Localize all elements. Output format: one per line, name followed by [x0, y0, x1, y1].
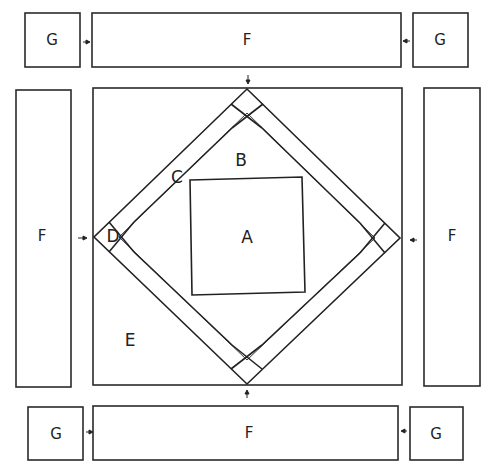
label-b: B: [235, 150, 247, 170]
arrow-down-icon: [246, 75, 250, 84]
label-g: G: [430, 425, 442, 443]
label-e: E: [125, 330, 136, 350]
quilt-diagram: G F G F A: [0, 0, 494, 467]
top-border-f: F: [92, 13, 401, 67]
label-g: G: [434, 31, 446, 49]
arrow-right-icon: [78, 236, 87, 240]
label-g: G: [46, 31, 58, 49]
arrow-right-icon: [86, 430, 93, 434]
label-d: D: [106, 226, 119, 246]
left-border-f: F: [16, 90, 71, 387]
label-f: F: [38, 227, 47, 245]
bottom-left-corner-g: G: [28, 407, 83, 460]
top-left-corner-g: G: [25, 13, 80, 67]
label-a: A: [241, 227, 253, 247]
right-border-f: F: [424, 88, 480, 386]
center-block: A B C D E: [93, 88, 402, 385]
label-f: F: [245, 424, 254, 442]
arrow-left-icon: [401, 429, 407, 433]
label-f: F: [448, 227, 457, 245]
label-g: G: [50, 425, 62, 443]
label-f: F: [243, 31, 252, 49]
top-right-corner-g: G: [413, 13, 468, 67]
arrow-left-icon: [410, 238, 417, 242]
arrow-right-icon: [83, 40, 90, 44]
arrow-up-icon: [245, 390, 249, 398]
label-c: C: [171, 167, 183, 187]
bottom-right-corner-g: G: [410, 407, 463, 460]
bottom-border-f: F: [93, 406, 398, 460]
arrow-left-icon: [403, 39, 410, 43]
